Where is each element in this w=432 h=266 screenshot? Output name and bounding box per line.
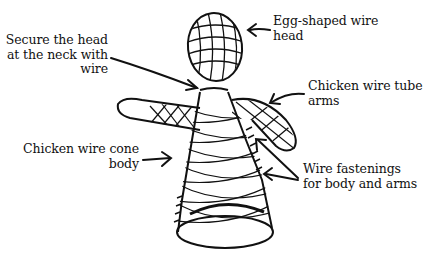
body-arrow [143, 158, 170, 160]
body-label: Chicken wire cone body [0, 142, 139, 171]
fastenings-label-line-1: Wire fastenings [303, 162, 417, 177]
body-label-line-2: body [0, 157, 139, 172]
arms-label: Chicken wire tube arms [308, 79, 422, 108]
right-arm [232, 98, 300, 154]
left-arm [118, 99, 200, 130]
neck-label-line-1: Secure the head [0, 33, 108, 48]
neck-label-line-2: at the neck with [0, 48, 108, 63]
neck-label-line-3: wire [0, 62, 108, 77]
body-label-line-1: Chicken wire cone [0, 142, 139, 157]
arm-arrow [272, 94, 304, 102]
head-shape [185, 10, 246, 83]
neck-arrow [111, 58, 197, 88]
body-cone [170, 92, 280, 248]
head-label-line-1: Egg-shaped wire [273, 14, 378, 29]
fastenings-label-line-2: for body and arms [303, 177, 417, 192]
head-label: Egg-shaped wire head [273, 14, 378, 43]
head-label-line-2: head [273, 29, 378, 44]
neck-label: Secure the head at the neck with wire [0, 33, 108, 77]
neck-ring [200, 88, 228, 90]
fastenings-label: Wire fastenings for body and arms [303, 162, 417, 191]
arrows [111, 24, 304, 180]
fastening-arrow-upper [258, 140, 298, 178]
head-arrow [250, 29, 270, 30]
arms-label-line-1: Chicken wire tube [308, 79, 422, 94]
arms-label-line-2: arms [308, 94, 422, 109]
